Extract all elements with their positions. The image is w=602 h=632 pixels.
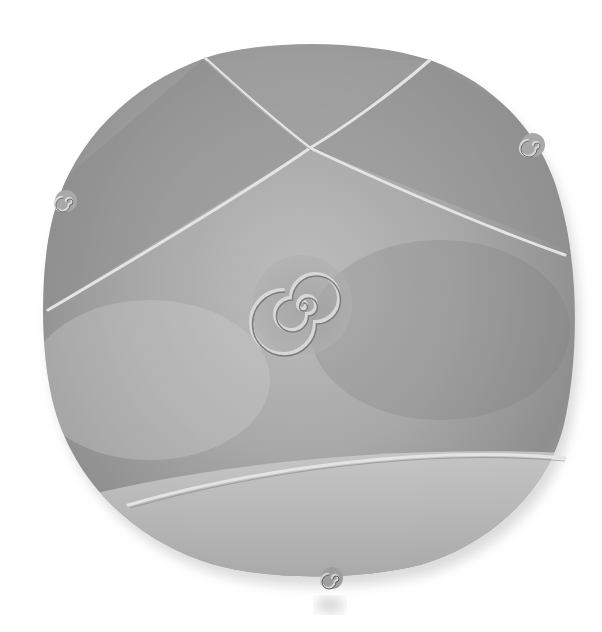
plate-photo: Grey ceramic plate with spiral center an… (0, 0, 602, 632)
plate-illustration (0, 0, 602, 632)
left-coil (55, 190, 77, 212)
